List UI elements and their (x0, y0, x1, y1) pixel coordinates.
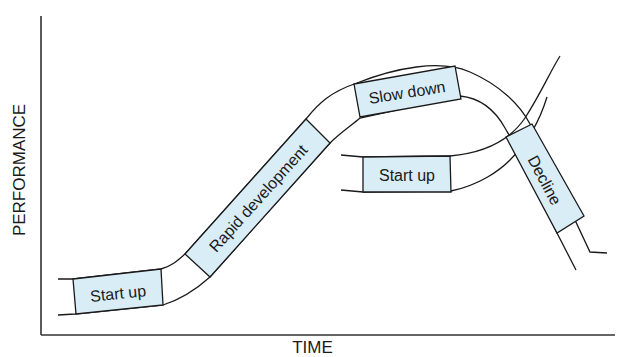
stage-decline: Decline (506, 124, 584, 233)
stage-label-rapid-development: Rapid development (206, 141, 311, 255)
stage-rapid-development: Rapid development (185, 119, 330, 277)
x-axis-label: TIME (0, 338, 625, 357)
stage-slow-down: Slow down (354, 66, 461, 117)
stage-label-startup-2: Start up (379, 167, 435, 184)
y-axis-label-container: PERFORMANCE (0, 60, 40, 280)
stage-startup-2: Start up (363, 156, 451, 192)
stage-startup-1: Start up (73, 269, 163, 314)
y-axis-label: PERFORMANCE (10, 104, 30, 236)
